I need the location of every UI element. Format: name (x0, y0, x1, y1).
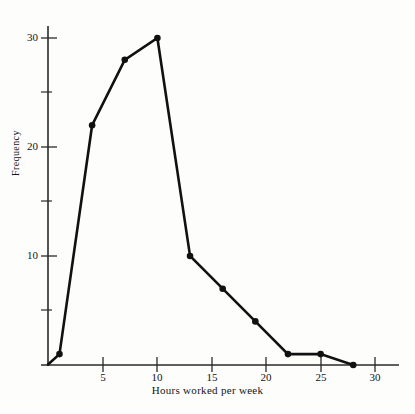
plot-area (0, 0, 415, 414)
data-markers (56, 35, 356, 369)
data-point (252, 318, 259, 325)
data-point (285, 351, 292, 358)
data-point (317, 351, 324, 358)
data-point (219, 285, 226, 292)
x-tick-label-5: 5 (89, 371, 117, 383)
data-point (350, 362, 357, 369)
data-point (121, 57, 128, 64)
x-tick-label-25: 25 (307, 371, 335, 383)
y-axis-title: Frequency (10, 86, 21, 176)
data-point (187, 253, 194, 260)
data-point (154, 35, 161, 42)
data-point (89, 122, 96, 129)
data-line (48, 38, 353, 365)
x-tick-label-15: 15 (198, 371, 226, 383)
frequency-polygon-chart: 30 20 10 5 10 15 20 25 30 Hours worked p… (0, 0, 415, 414)
y-tick-label-30: 30 (16, 31, 38, 43)
x-tick-label-20: 20 (252, 371, 280, 383)
data-point (56, 351, 63, 358)
x-tick-label-30: 30 (361, 371, 389, 383)
y-tick-label-10: 10 (16, 249, 38, 261)
x-axis-title: Hours worked per week (0, 384, 415, 396)
x-tick-label-10: 10 (143, 371, 171, 383)
